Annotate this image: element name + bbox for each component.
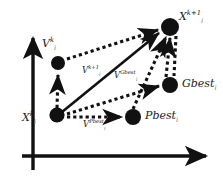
node-Xk1[interactable] <box>161 18 179 36</box>
node-Xk[interactable] <box>49 107 64 122</box>
edge-gbest-to-xk1 <box>166 38 170 77</box>
label-node-Xk1: Xk+1i <box>179 11 203 22</box>
edge-xk-to-vk <box>57 75 58 108</box>
label-vector-v-gbest: VGbesti <box>114 71 137 80</box>
pso-vector-diagram <box>0 0 223 182</box>
node-Pbest[interactable] <box>125 109 141 125</box>
label-vector-v-k1: Vk+1i <box>82 66 101 75</box>
label-node-Vk: Vki <box>42 38 56 49</box>
label-node-Gbest: Gbesti <box>182 78 217 89</box>
label-vector-v-pbest: VPbesti <box>83 120 106 129</box>
edge-xk1-to-gbest <box>174 36 176 76</box>
label-node-Xk: Xki <box>22 112 36 123</box>
label-node-Pbest: Pbesti <box>145 110 178 121</box>
node-Vk[interactable] <box>51 56 65 70</box>
node-Gbest[interactable] <box>162 77 178 93</box>
axes-group <box>22 38 206 170</box>
figure-canvas: Xki Vki Xk+1i Gbesti Pbesti Vk+1i VGbest… <box>0 0 223 182</box>
edge-pbest-to-xk1 <box>133 37 166 109</box>
